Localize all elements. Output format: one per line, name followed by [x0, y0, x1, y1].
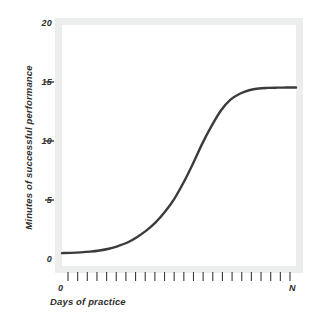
- plot-svg: [0, 0, 311, 314]
- y-axis-tick-dashes: [45, 82, 54, 200]
- learning-curve-figure: 20 15 10 5 0 Minutes of successful perfo…: [0, 0, 311, 314]
- learning-curve-line: [62, 87, 296, 253]
- x-axis-tick-marks: [68, 272, 290, 281]
